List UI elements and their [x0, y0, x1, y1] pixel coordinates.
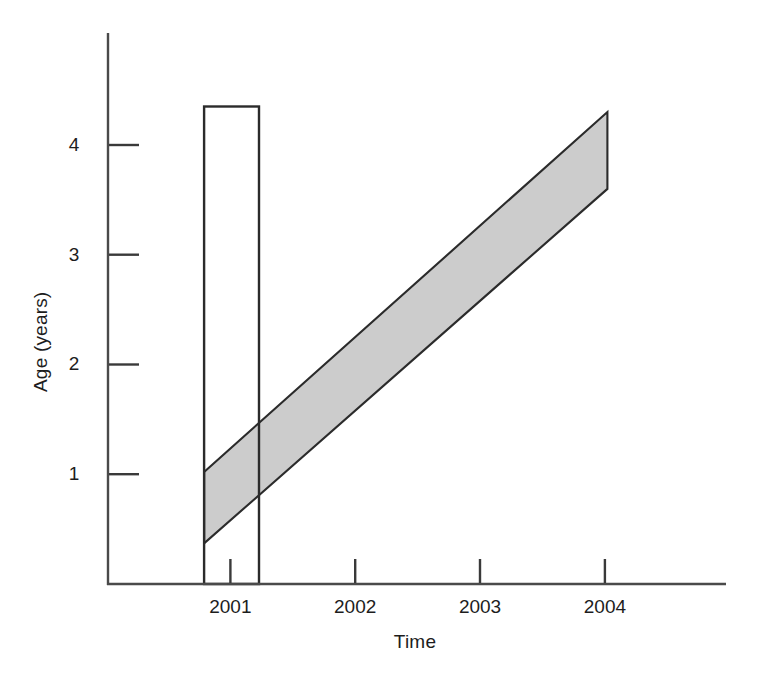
- y-tick-label-1: 1: [60, 463, 88, 485]
- cohort-age-band: [204, 112, 607, 543]
- x-tick-label-2004: 2004: [559, 596, 651, 618]
- chart-figure: 4 3 2 1 2001 2002 2003 2004 Age (years) …: [0, 0, 761, 685]
- y-tick-label-4: 4: [60, 134, 88, 156]
- x-tick-label-2003: 2003: [434, 596, 526, 618]
- x-tick-label-2002: 2002: [309, 596, 401, 618]
- x-tick-label-2001: 2001: [184, 596, 276, 618]
- y-axis-title: Age (years): [30, 292, 52, 392]
- y-tick-label-3: 3: [60, 244, 88, 266]
- x-axis-title: Time: [370, 631, 460, 653]
- plot-area: [0, 0, 761, 685]
- y-tick-label-2: 2: [60, 353, 88, 375]
